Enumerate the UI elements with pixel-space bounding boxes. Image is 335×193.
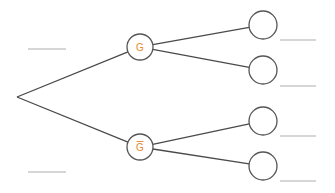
probability-tree-diagram: GG xyxy=(0,0,335,193)
node-not-g: G xyxy=(127,134,153,160)
leaf-node-1[interactable] xyxy=(249,56,277,84)
leaf-node-2[interactable] xyxy=(249,107,277,135)
node-g: G xyxy=(127,34,153,60)
leaf-node-3[interactable] xyxy=(249,152,277,180)
branch-to-leaf-3 xyxy=(153,149,249,164)
branch-root-to-node-0 xyxy=(17,52,128,97)
branch-to-leaf-2 xyxy=(153,124,250,144)
branch-root-to-node-1 xyxy=(17,97,128,142)
branch-to-leaf-1 xyxy=(153,49,249,67)
node-label: G xyxy=(136,142,144,153)
branch-to-leaf-0 xyxy=(153,27,249,44)
leaf-node-0[interactable] xyxy=(249,11,277,39)
node-label: G xyxy=(136,42,144,53)
